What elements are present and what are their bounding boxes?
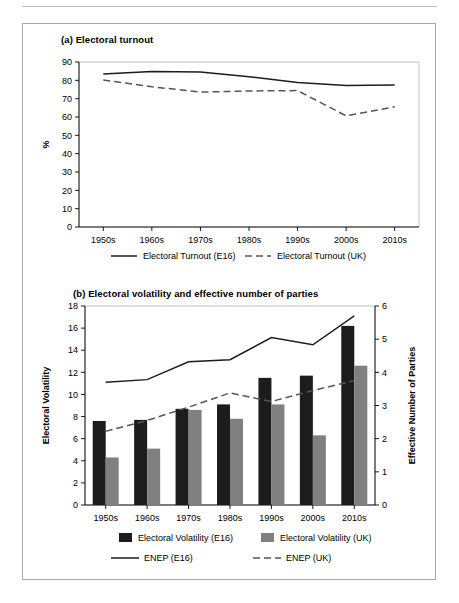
panel-b-y-tick-label: 0	[73, 500, 78, 510]
panel-b-legend-swatch-bar	[119, 533, 132, 542]
panel-b-chart: 02468101214161801234561950s1960s1970s198…	[23, 282, 437, 579]
panel-b-y2-tick-label: 3	[382, 401, 387, 411]
panel-b-legend-item: ENEP (E16)	[111, 553, 193, 563]
panel-b-x-tick-label: 2010s	[342, 513, 367, 523]
panel-a-y-tick-label: 70	[62, 94, 72, 104]
panel-b-x-tick-label: 1970s	[176, 513, 201, 523]
panel-a-y-tick-label: 90	[62, 57, 72, 67]
panel-b-bar	[134, 420, 147, 505]
panel-a-x-tick-label: 1980s	[237, 235, 262, 245]
panel-b-bar	[147, 449, 160, 505]
panel-b-bar	[354, 366, 367, 505]
panel-a-legend-label: Electoral Turnout (UK)	[277, 251, 366, 261]
figure-container: (a) Electoral turnout 010203040506070809…	[22, 23, 436, 580]
panel-a-x-tick-label: 1990s	[285, 235, 310, 245]
panel-b-y-tick-label: 14	[68, 345, 78, 355]
panel-a-x-tick-label: 1970s	[188, 235, 213, 245]
panel-a-plot-frame	[79, 62, 419, 227]
panel-b-y-axis-title: Electoral Volatility	[41, 367, 51, 444]
panel-b-y-tick-label: 16	[68, 323, 78, 333]
panel-b-y-tick-label: 18	[68, 301, 78, 311]
panel-b-bar	[341, 326, 354, 505]
panel-b-legend-label: ENEP (E16)	[144, 553, 193, 563]
panel-a-x-tick-label: 2000s	[334, 235, 359, 245]
panel-b-x-tick-label: 2000s	[301, 513, 326, 523]
panel-b-y-tick-label: 12	[68, 368, 78, 378]
panel-a-y-tick-label: 20	[62, 186, 72, 196]
panel-b-y2-tick-label: 1	[382, 467, 387, 477]
panel-a-x-tick-label: 2010s	[382, 235, 407, 245]
panel-b-bar	[106, 457, 119, 505]
panel-b-y2-tick-label: 6	[382, 301, 387, 311]
panel-b-bar	[217, 404, 230, 505]
panel-b-legend-label: Electoral Volatility (E16)	[138, 533, 233, 543]
panel-b-x-tick-label: 1980s	[218, 513, 243, 523]
panel-b-y-tick-label: 6	[73, 434, 78, 444]
panel-a-chart: 01020304050607080901950s1960s1970s1980s1…	[23, 26, 437, 284]
panel-a-y-tick-label: 50	[62, 131, 72, 141]
panel-b-bar	[93, 421, 106, 505]
panel-electoral-turnout: (a) Electoral turnout 010203040506070809…	[23, 26, 437, 284]
panel-a-y-tick-label: 60	[62, 112, 72, 122]
panel-b-bar	[313, 435, 326, 505]
panel-a-series-0	[103, 72, 394, 86]
panel-volatility-enep: (b) Electoral volatility and effective n…	[23, 282, 437, 579]
panel-b-bar	[230, 419, 243, 505]
panel-a-y-tick-label: 0	[67, 222, 72, 232]
panel-b-y2-tick-label: 5	[382, 334, 387, 344]
panel-a-legend-item: Electoral Turnout (E16)	[111, 251, 236, 261]
panel-b-line-series-0	[106, 316, 355, 382]
panel-a-y-tick-label: 10	[62, 204, 72, 214]
panel-a-x-tick-label: 1960s	[140, 235, 165, 245]
top-divider-rule	[22, 6, 437, 7]
panel-b-y2-tick-label: 4	[382, 368, 387, 378]
panel-a-y-tick-label: 30	[62, 167, 72, 177]
panel-a-x-tick-label: 1950s	[91, 235, 116, 245]
panel-b-y2-tick-label: 0	[382, 500, 387, 510]
panel-b-x-tick-label: 1950s	[93, 513, 118, 523]
panel-b-title: (b) Electoral volatility and effective n…	[73, 288, 318, 299]
panel-b-x-tick-label: 1990s	[259, 513, 284, 523]
panel-b-bar	[300, 376, 313, 505]
panel-a-y-axis-title: %	[41, 140, 51, 148]
panel-a-title: (a) Electoral turnout	[61, 34, 153, 45]
panel-a-y-tick-label: 40	[62, 149, 72, 159]
panel-b-bar	[271, 404, 284, 505]
panel-b-bar	[258, 378, 271, 505]
panel-b-legend-label: ENEP (UK)	[286, 553, 331, 563]
panel-b-x-tick-label: 1960s	[135, 513, 160, 523]
panel-b-bar	[189, 410, 202, 505]
panel-a-y-tick-label: 80	[62, 76, 72, 86]
panel-b-bar	[176, 409, 189, 505]
panel-b-legend-swatch-bar	[261, 533, 274, 542]
panel-b-legend-item: ENEP (UK)	[253, 553, 331, 563]
panel-a-legend-label: Electoral Turnout (E16)	[143, 251, 236, 261]
panel-b-legend-item: Electoral Volatility (E16)	[119, 533, 233, 543]
panel-b-legend-label: Electoral Volatility (UK)	[280, 533, 372, 543]
figure-page: (a) Electoral turnout 010203040506070809…	[0, 0, 459, 603]
panel-b-y-tick-label: 2	[73, 478, 78, 488]
panel-b-y-tick-label: 4	[73, 456, 78, 466]
panel-b-y2-axis-title: Effective Number of Parties	[407, 347, 417, 465]
panel-b-y-tick-label: 10	[68, 390, 78, 400]
panel-b-y2-tick-label: 2	[382, 434, 387, 444]
panel-a-legend-item: Electoral Turnout (UK)	[245, 251, 366, 261]
panel-b-legend-item: Electoral Volatility (UK)	[261, 533, 372, 543]
panel-b-y-tick-label: 8	[73, 412, 78, 422]
